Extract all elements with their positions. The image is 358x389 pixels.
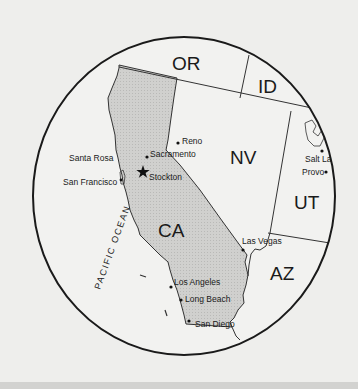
city-label-las-vegas: Las Vegas [242,236,282,246]
map-container: OR ID NV UT CA AZ PACIFIC OCEAN Reno Sac… [0,0,358,389]
state-label-id: ID [258,76,277,97]
city-marker-long-beach [179,298,182,301]
city-label-reno: Reno [182,136,203,146]
state-label-ut: UT [294,192,320,213]
city-label-santa-rosa: Santa Rosa [69,153,114,163]
city-label-stockton: Stockton [149,172,182,182]
city-marker-los-angeles [169,285,172,288]
city-marker-salt-lake [320,149,323,152]
city-marker-san-diego [187,319,190,322]
city-marker-sacramento [145,155,148,158]
state-label-ca: CA [158,220,185,241]
city-label-long-beach: Long Beach [185,294,231,304]
state-label-or: OR [172,53,201,74]
city-marker-provo [324,170,327,173]
city-label-los-angeles: Los Angeles [174,277,220,287]
city-label-san-francisco: San Francisco [63,177,118,187]
city-label-sacramento: Sacramento [150,149,196,159]
city-marker-san-francisco [120,179,123,182]
city-label-salt-lake: Salt La [305,154,332,164]
bottom-edge-strip [0,382,358,389]
state-label-nv: NV [230,147,257,168]
state-label-az: AZ [270,263,295,284]
city-label-provo: Provo [302,167,324,177]
city-label-san-diego: San Diego [195,319,235,329]
regional-map: OR ID NV UT CA AZ PACIFIC OCEAN Reno Sac… [0,0,358,389]
city-marker-las-vegas [241,248,244,251]
city-marker-reno [176,141,179,144]
